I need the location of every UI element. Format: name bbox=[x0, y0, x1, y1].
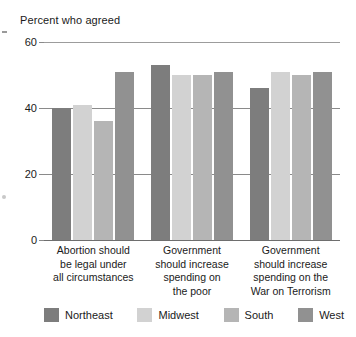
category-label-line: should increase bbox=[243, 258, 338, 272]
category-label-line: spending on the bbox=[243, 271, 338, 285]
category-label-line: Government bbox=[243, 244, 338, 258]
bar-northeast[interactable] bbox=[250, 88, 269, 240]
bar-group bbox=[44, 42, 143, 240]
legend-item-midwest[interactable]: Midwest bbox=[137, 308, 198, 322]
bar-group bbox=[143, 42, 242, 240]
legend-item-northeast[interactable]: Northeast bbox=[44, 308, 113, 322]
bar-group bbox=[241, 42, 340, 240]
grouped-bar-chart: Percent who agreed 0204060 Abortion shou… bbox=[0, 0, 356, 337]
legend-label: Northeast bbox=[65, 309, 113, 321]
legend-label: West bbox=[319, 309, 344, 321]
bar-midwest[interactable] bbox=[172, 75, 191, 240]
category-label-line: Government bbox=[145, 244, 240, 258]
bar-south[interactable] bbox=[193, 75, 212, 240]
category-label-line: all circumstances bbox=[46, 271, 141, 285]
category-label: Abortion shouldbe legal underall circums… bbox=[44, 244, 143, 298]
legend-label: South bbox=[245, 309, 274, 321]
bar-south[interactable] bbox=[292, 75, 311, 240]
category-label-line: should increase bbox=[145, 258, 240, 272]
bar-groups bbox=[44, 42, 340, 240]
legend-label: Midwest bbox=[158, 309, 198, 321]
bar-northeast[interactable] bbox=[151, 65, 170, 240]
category-label-line: Abortion should bbox=[46, 244, 141, 258]
bar-west[interactable] bbox=[313, 72, 332, 240]
gridline-0: 0 bbox=[44, 240, 340, 241]
legend-swatch-icon bbox=[298, 308, 313, 322]
bar-midwest[interactable] bbox=[271, 72, 290, 240]
category-label: Governmentshould increasespending on the… bbox=[241, 244, 340, 298]
legend-item-south[interactable]: South bbox=[224, 308, 274, 322]
category-label: Governmentshould increasespending onthe … bbox=[143, 244, 242, 298]
legend-swatch-icon bbox=[137, 308, 152, 322]
bar-west[interactable] bbox=[115, 72, 134, 240]
chart-title: Percent who agreed bbox=[20, 14, 120, 26]
category-label-line: be legal under bbox=[46, 258, 141, 272]
bar-northeast[interactable] bbox=[52, 108, 71, 240]
y-axis-tick-40: 40 bbox=[25, 102, 37, 114]
legend-swatch-icon bbox=[224, 308, 239, 322]
y-axis-tick-60: 60 bbox=[25, 36, 37, 48]
legend-item-west[interactable]: West bbox=[298, 308, 344, 322]
bar-west[interactable] bbox=[214, 72, 233, 240]
legend-swatch-icon bbox=[44, 308, 59, 322]
plot-area: 0204060 bbox=[44, 42, 340, 240]
category-label-line: the poor bbox=[145, 285, 240, 299]
y-axis-tick-0: 0 bbox=[31, 234, 37, 246]
category-label-line: spending on bbox=[145, 271, 240, 285]
category-axis-labels: Abortion shouldbe legal underall circums… bbox=[44, 244, 340, 298]
y-axis-tick-20: 20 bbox=[25, 168, 37, 180]
bar-south[interactable] bbox=[94, 121, 113, 240]
bar-midwest[interactable] bbox=[73, 105, 92, 240]
chart-legend: NortheastMidwestSouthWest bbox=[44, 308, 344, 322]
category-label-line: War on Terrorism bbox=[243, 285, 338, 299]
